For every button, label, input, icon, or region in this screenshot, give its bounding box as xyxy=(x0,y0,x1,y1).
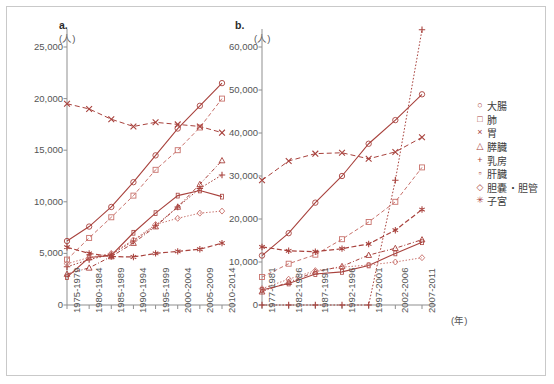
b-ytick-label: 30,000 xyxy=(200,170,258,181)
b-ytick-label: 60,000 xyxy=(200,41,258,52)
uterus-marker-icon: ✳ xyxy=(473,196,487,205)
b-xtick-label: 1982-1986 xyxy=(293,268,304,313)
colon-marker-icon: ○ xyxy=(473,101,487,110)
legend: ○大腸□肺×胃△膵臓+乳房▫肝臓◇胆嚢・胆管✳子宮 xyxy=(473,99,551,208)
legend-item-pancreas[interactable]: △膵臓 xyxy=(473,140,551,154)
legend-item-stomach[interactable]: ×胃 xyxy=(473,126,551,140)
gallbladder-marker-icon: ◇ xyxy=(473,183,487,192)
legend-item-lung[interactable]: □肺 xyxy=(473,113,551,127)
legend-item-gallbladder[interactable]: ◇胆嚢・胆管 xyxy=(473,181,551,195)
b-ytick-label: 50,000 xyxy=(200,84,258,95)
liver-marker-icon: ▫ xyxy=(473,169,487,178)
figure-frame: a. (人) b. (人) 05,00010,00015,00020,00025… xyxy=(6,6,546,376)
legend-item-breast[interactable]: +乳房 xyxy=(473,153,551,167)
series-line-肺 xyxy=(262,167,422,277)
b-ytick-label: 20,000 xyxy=(200,213,258,224)
b-xtick-label: 2007-2011 xyxy=(426,268,437,313)
pancreas-marker-icon: △ xyxy=(473,142,487,151)
breast-marker-icon: + xyxy=(473,156,487,165)
b-ytick-label: 10,000 xyxy=(200,256,258,267)
legend-item-label: 子宮 xyxy=(487,193,508,208)
stomach-marker-icon: × xyxy=(473,128,487,137)
legend-item-colon[interactable]: ○大腸 xyxy=(473,99,551,113)
legend-item-liver[interactable]: ▫肝臓 xyxy=(473,167,551,181)
b-xtick-label: 1987-1991 xyxy=(319,268,330,313)
b-xtick-label: 1992-1996 xyxy=(346,268,357,313)
b-xtick-label: 1997-2001 xyxy=(373,268,384,313)
legend-item-uterus[interactable]: ✳子宮 xyxy=(473,194,551,208)
b-ytick-label: 0 xyxy=(200,299,258,310)
chart-b-year-axis-label: (年) xyxy=(451,313,467,327)
b-xtick-label: 1977-1981 xyxy=(266,268,277,313)
b-plot-svg xyxy=(7,7,554,384)
b-ytick-label: 40,000 xyxy=(200,127,258,138)
b-xtick-label: 2002-2006 xyxy=(399,268,410,313)
lung-marker-icon: □ xyxy=(473,115,487,124)
series-line-子宮 xyxy=(262,210,422,252)
